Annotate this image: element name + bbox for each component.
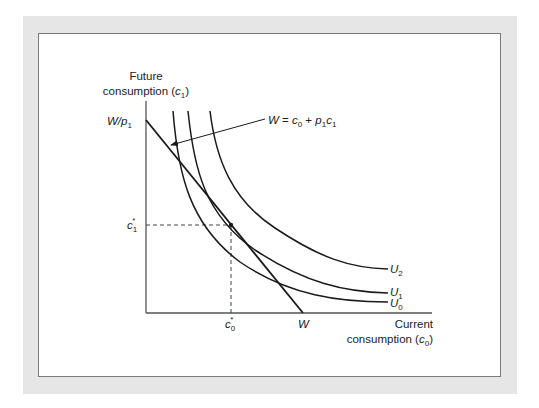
budget-line bbox=[146, 120, 303, 313]
c0-star-label: c0* bbox=[225, 315, 236, 333]
budget-equation: W = c0 + p1c1 bbox=[268, 114, 337, 129]
y-axis-label-line2: consumption (c1) bbox=[103, 85, 189, 100]
optimum-point bbox=[229, 223, 233, 227]
x-intercept-label: W bbox=[298, 318, 310, 330]
indifference-curve-u2 bbox=[210, 111, 388, 269]
equation-pointer-arrow bbox=[171, 119, 265, 145]
y-intercept-label: W/p1 bbox=[107, 115, 132, 130]
x-axis-label-line2: consumption (c0) bbox=[347, 333, 433, 348]
y-axis-label: Future bbox=[129, 70, 162, 82]
curve-label-u2: U2 bbox=[390, 263, 403, 278]
intertemporal-choice-diagram: Future consumption (c1) W/p1 c1* c0* W C… bbox=[0, 0, 539, 408]
c1-star-label: c1* bbox=[127, 216, 138, 234]
indifference-curve-u0 bbox=[173, 111, 388, 302]
x-axis-label: Current bbox=[395, 318, 434, 330]
